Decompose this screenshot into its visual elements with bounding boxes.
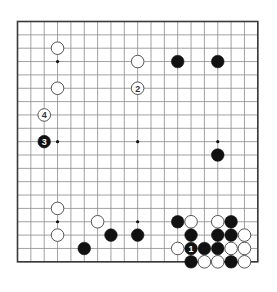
white-stone[interactable] xyxy=(211,255,224,268)
black-stone[interactable] xyxy=(131,229,144,242)
black-stone[interactable] xyxy=(105,229,118,242)
black-stone[interactable] xyxy=(171,55,184,68)
black-stone[interactable] xyxy=(211,55,224,68)
go-board-diagram: 2431 xyxy=(0,0,277,292)
black-stone[interactable] xyxy=(211,242,224,255)
black-stone[interactable] xyxy=(211,229,224,242)
white-stone[interactable] xyxy=(185,215,198,228)
black-stone[interactable] xyxy=(198,242,211,255)
star-point xyxy=(56,140,59,143)
white-stone[interactable] xyxy=(51,82,64,95)
black-stone[interactable] xyxy=(225,229,238,242)
black-stone[interactable] xyxy=(225,255,238,268)
black-stone[interactable] xyxy=(171,215,184,228)
white-stone[interactable] xyxy=(238,255,251,268)
star-point xyxy=(136,140,139,143)
white-stone[interactable] xyxy=(51,229,64,242)
black-stone[interactable] xyxy=(185,242,198,255)
white-stone[interactable] xyxy=(225,242,238,255)
white-stone[interactable] xyxy=(38,109,51,122)
white-stone[interactable] xyxy=(238,242,251,255)
white-stone[interactable] xyxy=(51,42,64,55)
black-stone[interactable] xyxy=(211,149,224,162)
white-stone[interactable] xyxy=(238,229,251,242)
black-stone[interactable] xyxy=(78,242,91,255)
white-stone[interactable] xyxy=(171,242,184,255)
white-stone[interactable] xyxy=(131,55,144,68)
black-stone[interactable] xyxy=(38,135,51,148)
black-stone[interactable] xyxy=(185,229,198,242)
white-stone[interactable] xyxy=(131,82,144,95)
star-point xyxy=(56,60,59,63)
white-stone[interactable] xyxy=(198,255,211,268)
white-stone[interactable] xyxy=(51,202,64,215)
black-stone[interactable] xyxy=(185,255,198,268)
star-point xyxy=(136,220,139,223)
star-point xyxy=(56,220,59,223)
go-board-svg[interactable] xyxy=(0,0,277,292)
black-stone[interactable] xyxy=(225,215,238,228)
star-point xyxy=(216,140,219,143)
white-stone[interactable] xyxy=(91,215,104,228)
white-stone[interactable] xyxy=(211,215,224,228)
